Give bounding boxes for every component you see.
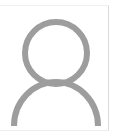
avatar-body-arc — [14, 82, 98, 126]
user-person-icon — [0, 6, 109, 132]
avatar-card[interactable]: User profile placeholder — [0, 5, 109, 131]
screenshot-root: User profile placeholder — [0, 0, 117, 138]
avatar-head-circle — [25, 22, 87, 84]
